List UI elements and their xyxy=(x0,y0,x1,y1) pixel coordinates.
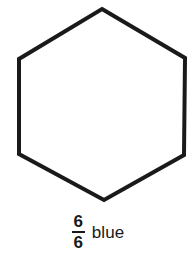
caption: 6 6 blue xyxy=(0,210,196,253)
fraction-six-sixths: 6 6 xyxy=(72,213,85,251)
fraction-denominator: 6 xyxy=(72,233,83,251)
fraction-numerator: 6 xyxy=(72,213,83,231)
shape-area xyxy=(0,0,196,210)
hexagon-svg xyxy=(0,0,196,210)
figure-container: 6 6 blue xyxy=(0,0,196,253)
hexagon-outline xyxy=(19,9,185,200)
caption-color-word: blue xyxy=(92,223,125,243)
